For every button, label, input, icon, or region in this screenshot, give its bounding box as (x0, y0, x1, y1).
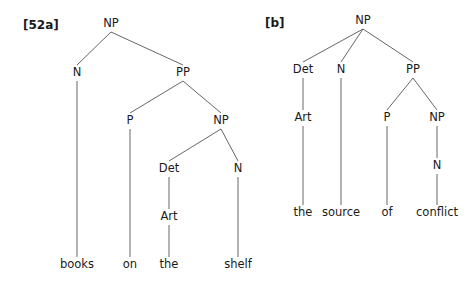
tree-node: conflict (416, 207, 458, 219)
tree-node: NP (103, 18, 119, 30)
tree-node: Art (294, 112, 311, 124)
tree-branch (111, 32, 183, 65)
tree-edges (0, 0, 473, 282)
tree-branch (183, 81, 221, 113)
tree-node: N (234, 163, 243, 175)
tree-node: shelf (224, 259, 252, 271)
tree-node: PP (406, 64, 420, 76)
tree-node: N (73, 67, 82, 79)
tree-node: P (127, 115, 134, 127)
tree-b-label: [b] (265, 17, 285, 29)
tree-branch (413, 78, 437, 110)
tree-node: source (322, 207, 360, 219)
tree-node: Det (293, 64, 313, 76)
tree-node: N (433, 160, 442, 172)
tree-node: NP (213, 115, 229, 127)
tree-a-label: [52a] (23, 19, 59, 31)
tree-node: the (160, 259, 179, 271)
tree-branch (169, 129, 221, 161)
tree-node: books (60, 259, 94, 271)
tree-node: NP (355, 15, 371, 27)
tree-node: of (381, 207, 392, 219)
tree-branch (363, 29, 413, 62)
tree-node: on (123, 259, 137, 271)
tree-node: P (384, 112, 391, 124)
tree-branch (77, 32, 111, 65)
tree-branch (303, 29, 363, 62)
tree-node: N (337, 64, 346, 76)
tree-branch (130, 81, 183, 113)
tree-node: Art (160, 211, 177, 223)
tree-branch (387, 78, 413, 110)
tree-branch (221, 129, 238, 161)
tree-node: PP (176, 67, 190, 79)
tree-node: the (294, 207, 313, 219)
tree-branch (341, 29, 363, 62)
tree-node: Det (159, 163, 179, 175)
tree-node: NP (429, 112, 445, 124)
